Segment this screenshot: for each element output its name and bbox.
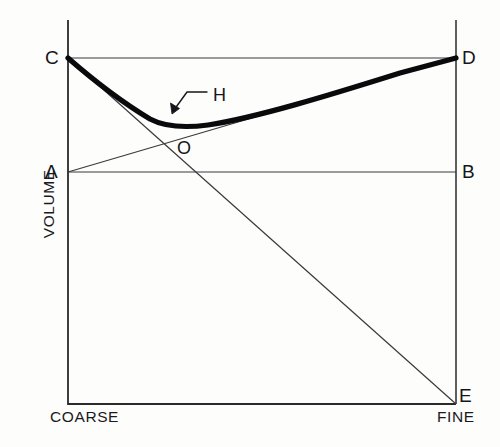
point-label-d: D: [462, 48, 476, 67]
point-label-e: E: [459, 386, 472, 405]
curve-h-total-volume: [68, 58, 456, 127]
point-label-o: O: [177, 139, 191, 157]
axis-frame: [68, 20, 456, 404]
line-ce: [68, 58, 456, 404]
diagram-canvas: [0, 0, 500, 447]
y-axis-label: VOLUME: [41, 159, 57, 249]
x-axis-left-label: COARSE: [50, 409, 119, 425]
h-leader-line: [174, 92, 207, 110]
volume-fineness-figure: C D A B E O H COARSE FINE VOLUME: [0, 0, 500, 447]
x-axis-right-label: FINE: [437, 409, 475, 425]
point-label-b: B: [462, 162, 475, 181]
point-label-h: H: [213, 86, 226, 104]
point-label-c: C: [45, 48, 59, 67]
